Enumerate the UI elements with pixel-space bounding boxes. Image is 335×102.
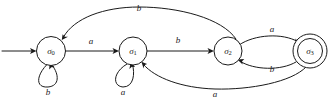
- edge-label-sigma3-b-sigma2: b: [270, 64, 275, 74]
- transition-sigma0-b-sigma0: b: [39, 63, 58, 98]
- edge-label-sigma3-a-sigma1: a: [213, 89, 218, 99]
- transition-sigma2-a-sigma3: a: [239, 24, 301, 45]
- state-node-sigma2[interactable]: σ2: [214, 37, 242, 65]
- transition-sigma3-b-sigma2: b: [237, 59, 296, 74]
- state-diagram-canvas: sigma1 ============ --> a sigma0 (self l…: [0, 0, 335, 102]
- state-node-sigma1[interactable]: σ1: [119, 37, 147, 65]
- transition-sigma0-a-sigma1: a: [66, 36, 120, 54]
- edge-label-sigma2-a-sigma3: a: [270, 24, 275, 34]
- state-node-sigma0[interactable]: σ0: [37, 37, 66, 66]
- transition-sigma2-b-sigma0: b: [62, 3, 236, 40]
- transition-sigma1-a-sigma1: a: [116, 62, 135, 97]
- edge-label-sigma2-b-sigma0: b: [137, 3, 142, 13]
- edge-label-sigma1-a-sigma1: a: [121, 87, 126, 97]
- edge-label-sigma1-b-sigma2: b: [176, 35, 181, 45]
- automaton-diagram: sigma1 ============ --> a sigma0 (self l…: [0, 0, 335, 102]
- state-node-sigma3[interactable]: σ3: [293, 34, 327, 68]
- edge-label-sigma0-a-sigma1: a: [89, 36, 94, 46]
- start-arrow: [2, 48, 37, 54]
- transition-sigma1-b-sigma2: b: [147, 35, 214, 54]
- edge-label-sigma0-b-sigma0: b: [46, 87, 51, 97]
